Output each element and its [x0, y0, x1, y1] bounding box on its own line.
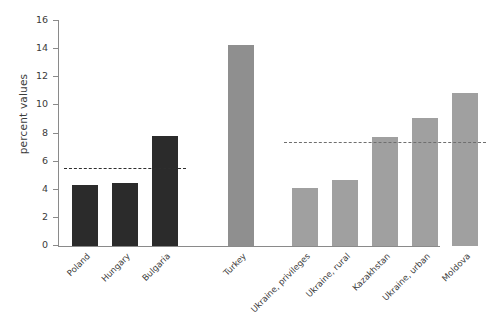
- bar: [72, 185, 98, 246]
- bar: [292, 188, 318, 246]
- y-tick-label: 14: [36, 42, 48, 53]
- y-tick: 16: [53, 20, 58, 21]
- x-axis-line: [58, 246, 440, 247]
- y-tick-label: 2: [42, 211, 48, 222]
- y-tick: 6: [53, 161, 58, 162]
- bar: [452, 93, 478, 246]
- y-tick: 4: [53, 189, 58, 190]
- bar: [228, 45, 254, 246]
- y-tick-label: 0: [42, 239, 48, 250]
- y-tick: 0: [53, 245, 58, 246]
- y-tick-label: 4: [42, 183, 48, 194]
- plot-area: 0246810121416: [60, 21, 440, 246]
- y-tick-label: 6: [42, 155, 48, 166]
- y-tick: 12: [53, 76, 58, 77]
- y-tick: 10: [53, 104, 58, 105]
- y-tick: 8: [53, 133, 58, 134]
- reference-line-cis-average: [284, 142, 486, 143]
- bar: [332, 180, 358, 246]
- bar: [412, 118, 438, 246]
- reference-line-eu-average: [64, 168, 186, 169]
- x-tick-label: Poland: [7, 251, 92, 324]
- y-tick: 2: [53, 217, 58, 218]
- bar: [152, 136, 178, 246]
- y-tick: 14: [53, 48, 58, 49]
- y-axis-title: percent values: [17, 34, 29, 194]
- y-tick-label: 16: [36, 14, 48, 25]
- bar: [372, 137, 398, 246]
- x-tick-label: Turkey: [163, 251, 248, 324]
- y-tick-label: 10: [36, 98, 48, 109]
- y-axis-line: [58, 20, 59, 247]
- y-tick-label: 8: [42, 127, 48, 138]
- bar: [112, 183, 138, 246]
- y-tick-label: 12: [36, 70, 48, 81]
